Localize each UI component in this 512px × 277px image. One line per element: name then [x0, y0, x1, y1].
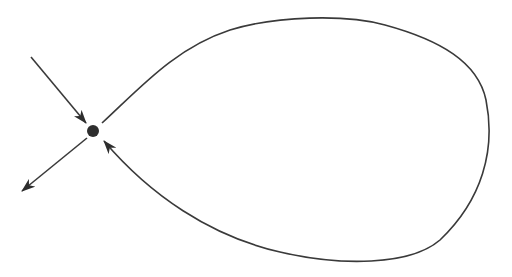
- saddle-point: [87, 125, 99, 137]
- outgoing-arrow: [22, 138, 87, 191]
- incoming-arrow: [31, 57, 86, 123]
- homoclinic-loop-curve: [102, 18, 489, 261]
- homoclinic-orbit-diagram: [0, 0, 512, 277]
